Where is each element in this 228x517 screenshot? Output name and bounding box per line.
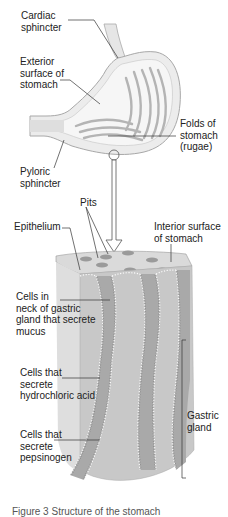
figure-caption: Figure 3 Structure of the stomach [12,506,160,517]
gastric-tissue-block [56,251,194,481]
stomach-illustration [30,24,180,160]
label-pepsinogen-cells: Cells that secrete pepsinogen [20,429,72,464]
label-interior-surface: Interior surface of stomach [154,221,221,244]
label-gastric-gland: Gastric gland [187,410,219,433]
label-neck-cells: Cells in neck of gastric gland that secr… [16,291,96,337]
label-exterior-surface: Exterior surface of stomach [20,56,64,91]
label-rugae: Folds of stomach (rugae) [180,118,218,153]
label-cardiac-sphincter: Cardiac sphincter [21,10,62,33]
magnify-arrow [106,160,122,252]
label-pyloric-sphincter: Pyloric sphincter [20,166,61,189]
label-hcl-cells: Cells that secrete hydrochloric acid [20,367,95,402]
label-epithelium: Epithelium [14,221,61,233]
label-pits: Pits [80,197,97,209]
